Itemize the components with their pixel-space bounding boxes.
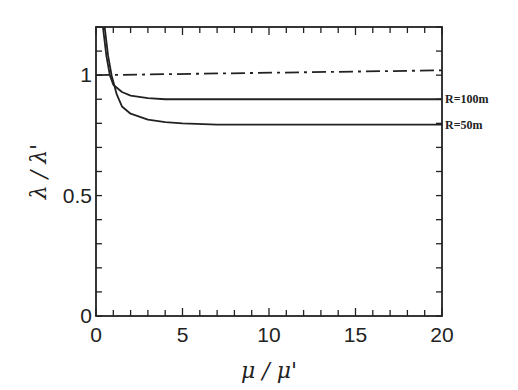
legend-label: R=100m — [445, 92, 489, 106]
x-axis-label: μ / μ' — [241, 358, 297, 383]
series-line-reference — [96, 70, 442, 75]
y-axis-label: λ / λ' — [26, 144, 51, 200]
x-tick-label: 15 — [344, 323, 367, 346]
y-tick-label: 0.5 — [63, 184, 92, 207]
plot-frame — [96, 27, 442, 316]
y-tick-label: 0 — [80, 304, 92, 327]
legend-label: R=50m — [445, 118, 483, 132]
x-tick-label: 10 — [257, 323, 280, 346]
x-tick-label: 20 — [430, 323, 453, 346]
x-tick-label: 5 — [177, 323, 189, 346]
series-line-r-100m — [103, 27, 442, 99]
series-line-r-50m — [105, 27, 442, 125]
chart: 0510152000.51μ / μ'λ / λ'R=100mR=50m — [0, 0, 518, 390]
y-tick-label: 1 — [80, 63, 92, 86]
